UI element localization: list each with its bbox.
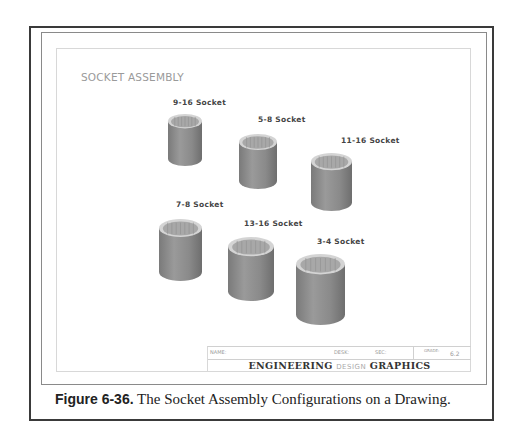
socket-13-16 bbox=[227, 236, 275, 302]
figure-caption: Figure 6-36. The Socket Assembly Configu… bbox=[55, 391, 451, 408]
socket-5-8 bbox=[238, 133, 278, 190]
sec-field-label: SEC: bbox=[375, 349, 387, 355]
sheet-title: SOCKET ASSEMBLY bbox=[81, 71, 184, 83]
drawing-area bbox=[56, 48, 471, 372]
socket-label: 11-16 Socket bbox=[341, 136, 400, 145]
socket-3-4 bbox=[295, 253, 346, 326]
socket-label: 13-16 Socket bbox=[244, 219, 303, 228]
desk-field-label: DESK: bbox=[334, 349, 349, 355]
socket-label: 3-4 Socket bbox=[317, 237, 365, 246]
socket-11-16 bbox=[310, 152, 353, 212]
title-block: NAME: DESK: SEC: GRADE: 6.2 ENGINEERING … bbox=[207, 346, 471, 372]
socket-7-8 bbox=[158, 218, 203, 282]
name-field-label: NAME: bbox=[210, 349, 226, 355]
socket-9-16 bbox=[167, 113, 203, 167]
grade-field-label: GRADE: bbox=[424, 348, 439, 353]
title-mid: DESIGN bbox=[336, 363, 366, 371]
title-left: ENGINEERING bbox=[248, 360, 332, 371]
socket-label: 7-8 Socket bbox=[176, 200, 224, 209]
drawing-number: 6.2 bbox=[450, 350, 460, 357]
figure-number: Figure 6-36. bbox=[55, 391, 134, 407]
title-block-divider bbox=[413, 347, 414, 359]
socket-label: 9-16 Socket bbox=[173, 98, 226, 107]
title-right: GRAPHICS bbox=[370, 360, 431, 371]
title-block-title: ENGINEERING DESIGN GRAPHICS bbox=[208, 359, 471, 374]
caption-text: The Socket Assembly Configurations on a … bbox=[134, 391, 451, 407]
socket-label: 5-8 Socket bbox=[258, 115, 306, 124]
